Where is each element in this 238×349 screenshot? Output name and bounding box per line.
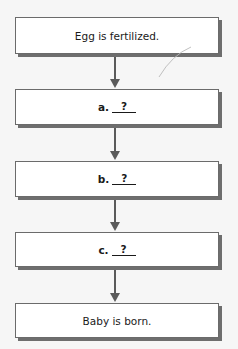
- step-c-blank: c. ?: [15, 232, 219, 267]
- arrow-down-icon: [114, 200, 116, 224]
- arrow-down-icon: [114, 128, 116, 153]
- step-letter: b.: [98, 173, 110, 185]
- step-egg-fertilized: Egg is fertilized.: [15, 17, 219, 54]
- answer-blank: ?: [112, 173, 136, 185]
- step-text: Egg is fertilized.: [75, 30, 159, 42]
- answer-blank: ?: [112, 244, 136, 256]
- step-a-blank: a. ?: [15, 89, 219, 125]
- arrow-down-icon: [114, 57, 116, 81]
- step-baby-born: Baby is born.: [15, 303, 219, 338]
- step-letter: a.: [98, 101, 109, 113]
- arrow-down-icon: [114, 270, 116, 295]
- step-b-blank: b. ?: [15, 161, 219, 197]
- step-letter: c.: [98, 244, 108, 256]
- answer-blank: ?: [112, 101, 136, 113]
- step-text: Baby is born.: [83, 315, 152, 327]
